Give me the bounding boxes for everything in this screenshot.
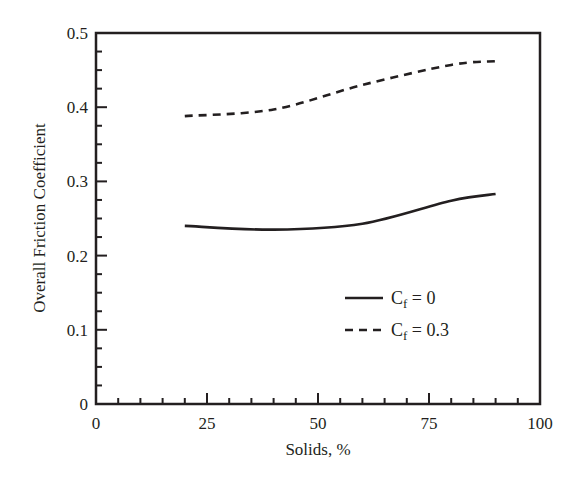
y-tick-label: 0 <box>80 395 89 414</box>
legend-label: Cf = 0 <box>391 288 436 311</box>
plot-frame <box>96 33 540 404</box>
x-tick-label: 75 <box>421 414 438 433</box>
legend: Cf = 0Cf = 0.3 <box>345 288 449 343</box>
y-tick-label: 0.3 <box>67 172 88 191</box>
y-tick-label: 0.1 <box>67 321 88 340</box>
x-axis-title: Solids, % <box>285 440 350 459</box>
series-line-cf-0 <box>185 194 496 230</box>
x-tick-label: 50 <box>310 414 327 433</box>
legend-label: Cf = 0.3 <box>391 320 449 343</box>
x-tick-label: 100 <box>527 414 553 433</box>
x-tick-label: 25 <box>199 414 216 433</box>
line-chart: 025507510000.10.20.30.40.5 Cf = 0Cf = 0.… <box>0 0 581 484</box>
y-tick-label: 0.4 <box>67 98 89 117</box>
series-layer <box>185 61 496 229</box>
y-tick-label: 0.2 <box>67 247 88 266</box>
series-line-cf-0-3 <box>185 61 496 116</box>
y-tick-label: 0.5 <box>67 24 88 43</box>
x-tick-label: 0 <box>92 414 101 433</box>
y-axis-title: Overall Friction Coefficient <box>30 123 49 313</box>
